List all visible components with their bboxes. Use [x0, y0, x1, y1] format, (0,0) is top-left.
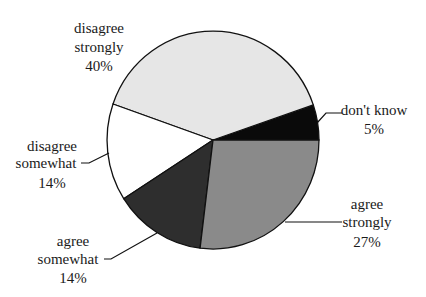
label-percent: 27%: [353, 234, 381, 250]
leader-dont-know: [317, 113, 342, 123]
label-dont-know: don't know 5%: [341, 102, 408, 137]
leader-agree-somewhat: [104, 233, 157, 259]
pie: [107, 31, 319, 249]
label-line2: somewhat: [16, 155, 78, 171]
label-line1: disagree: [27, 138, 77, 154]
label-line1: don't know: [341, 102, 408, 118]
label-line2: somewhat: [38, 251, 100, 267]
label-disagree-strongly: disagree strongly 40%: [74, 20, 124, 74]
slice-agree-strongly: [200, 140, 319, 249]
label-line1: disagree: [74, 20, 124, 36]
label-percent: 14%: [38, 175, 66, 191]
label-line2: strongly: [342, 214, 392, 230]
pie-chart: disagree strongly 40% don't know 5% disa…: [0, 0, 426, 297]
label-percent: 5%: [364, 121, 384, 137]
label-line1: agree: [351, 196, 384, 212]
label-agree-somewhat: agree somewhat 14%: [38, 233, 100, 286]
label-disagree-somewhat: disagree somewhat 14%: [16, 138, 78, 191]
label-line1: agree: [57, 233, 90, 249]
label-agree-strongly: agree strongly 27%: [342, 196, 392, 250]
label-percent: 40%: [85, 58, 113, 74]
label-line2: strongly: [74, 39, 124, 55]
label-percent: 14%: [59, 270, 87, 286]
leader-disagree-somewhat: [81, 153, 109, 163]
